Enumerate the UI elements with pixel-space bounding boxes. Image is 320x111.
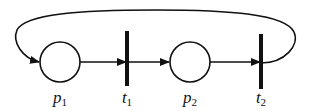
label-p2-sub: 2: [192, 96, 198, 108]
label-p2-base: p: [183, 88, 192, 107]
label-t2: t2: [256, 89, 266, 108]
label-t1: t1: [122, 89, 132, 108]
label-p1-sub: 1: [62, 96, 68, 108]
transition-t1[interactable]: [125, 31, 129, 86]
place-p2[interactable]: [170, 42, 210, 82]
transition-t2[interactable]: [259, 34, 263, 89]
label-t2-sub: 2: [261, 96, 267, 108]
place-p1[interactable]: [40, 42, 80, 82]
label-p1-base: p: [53, 88, 62, 107]
label-t1-sub: 1: [127, 96, 133, 108]
label-p1: p1: [53, 89, 67, 108]
label-p2: p2: [183, 89, 197, 108]
